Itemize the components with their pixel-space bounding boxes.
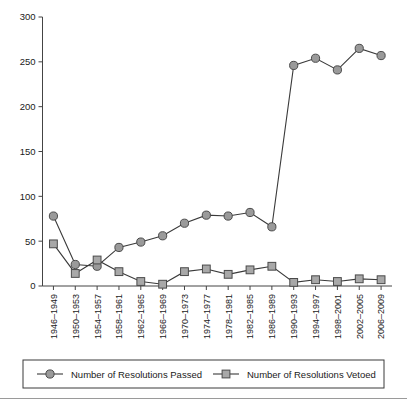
x-tick-label: 1998–2001 — [333, 294, 343, 339]
x-tick-label: 2006–2009 — [376, 294, 386, 339]
legend-label-vetoed: Number of Resolutions Vetoed — [247, 369, 376, 380]
series-line-passed — [53, 48, 381, 266]
x-tick-label: 1978–1981 — [224, 294, 234, 339]
data-point-passed: 1946–1949: 78 — [49, 212, 57, 220]
chart-container: 0501001502002503001946–19491950–19531954… — [0, 0, 407, 402]
x-tick-label: 1986–1989 — [267, 294, 277, 339]
y-tick-label: 0 — [30, 280, 35, 291]
data-point-passed: 1974–1977: 79 — [202, 211, 210, 219]
data-point-passed: 1966–1969: 56 — [159, 232, 167, 240]
data-point-vetoed: 1962–1965: 5 — [137, 278, 145, 286]
y-tick-label: 300 — [20, 11, 36, 22]
data-point-vetoed: 2002–2005: 8 — [355, 275, 363, 283]
data-point-passed: 1978–1981: 78 — [224, 212, 232, 220]
data-point-vetoed: 1978–1981: 13 — [224, 270, 232, 278]
data-point-vetoed: 1966–1969: 2 — [159, 280, 167, 288]
y-tick-label: 250 — [20, 56, 36, 67]
data-point-passed: 1970–1973: 70 — [180, 219, 188, 227]
data-point-passed: 1958–1961: 43 — [115, 243, 123, 251]
y-tick-label: 200 — [20, 101, 36, 112]
data-point-vetoed: 1994–1997: 7 — [312, 276, 320, 284]
data-point-vetoed: 1954–1957: 29 — [93, 256, 101, 264]
x-tick-label: 1958–1961 — [114, 294, 124, 339]
x-tick-label: 2002–2005 — [355, 294, 365, 339]
data-point-vetoed: 1958–1961: 16 — [115, 268, 123, 276]
data-point-passed: 2002–2005: 265 — [355, 44, 363, 52]
data-point-passed: 1994–1997: 254 — [311, 54, 319, 62]
x-tick-label: 1994–1997 — [311, 294, 321, 339]
data-point-vetoed: 1950–1953: 14 — [71, 270, 79, 278]
legend-marker-circle-icon — [46, 370, 54, 378]
line-chart: 0501001502002503001946–19491950–19531954… — [0, 0, 407, 402]
data-point-vetoed: 1986–1989: 22 — [268, 262, 276, 270]
data-point-passed: 1982–1985: 82 — [246, 208, 254, 216]
x-tick-label: 1946–1949 — [49, 294, 59, 339]
data-point-vetoed: 1990–1993: 4 — [290, 279, 298, 287]
x-tick-label: 1954–1957 — [93, 294, 103, 339]
x-tick-label: 1950–1953 — [71, 294, 81, 339]
data-point-vetoed: 1946–1949: 47 — [50, 240, 58, 248]
data-point-vetoed: 1970–1973: 16 — [181, 268, 189, 276]
data-point-passed: 1950–1953: 24 — [71, 260, 79, 268]
chart-axes — [43, 17, 393, 286]
series-line-vetoed — [53, 244, 381, 284]
data-point-passed: 1962–1965: 49 — [137, 238, 145, 246]
data-point-vetoed: 1998–2001: 5 — [333, 278, 341, 286]
data-point-vetoed: 1974–1977: 19 — [202, 265, 210, 273]
data-point-vetoed: 2006–2009: 7 — [377, 276, 385, 284]
x-tick-label: 1982–1985 — [245, 294, 255, 339]
data-point-passed: 1986–1989: 66 — [268, 223, 276, 231]
y-tick-label: 50 — [25, 236, 36, 247]
data-point-passed: 1990–1993: 246 — [290, 61, 298, 69]
y-tick-label: 150 — [20, 146, 36, 157]
x-tick-label: 1990–1993 — [289, 294, 299, 339]
x-tick-label: 1974–1977 — [202, 294, 212, 339]
x-tick-label: 1966–1969 — [158, 294, 168, 339]
x-tick-label: 1970–1973 — [180, 294, 190, 339]
legend-marker-square-icon — [222, 370, 230, 378]
data-point-passed: 1998–2001: 241 — [333, 66, 341, 74]
y-tick-label: 100 — [20, 191, 36, 202]
x-tick-label: 1962–1965 — [136, 294, 146, 339]
data-point-vetoed: 1982–1985: 18 — [246, 266, 254, 274]
data-point-passed: 2006–2009: 257 — [377, 51, 385, 59]
legend-label-passed: Number of Resolutions Passed — [71, 369, 202, 380]
